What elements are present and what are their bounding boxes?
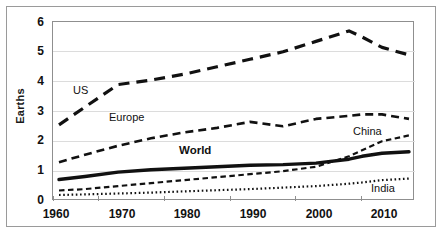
y-tick-4: 4 bbox=[18, 75, 44, 87]
y-tick-5: 5 bbox=[18, 45, 44, 57]
plot-canvas bbox=[53, 22, 415, 201]
x-tick-2010: 2010 bbox=[359, 208, 409, 220]
y-tick-6: 6 bbox=[18, 16, 44, 28]
series-label-europe: Europe bbox=[109, 111, 144, 123]
y-tick-0: 0 bbox=[18, 194, 44, 206]
series-label-world: World bbox=[179, 144, 211, 156]
series-label-us: US bbox=[73, 84, 88, 96]
series-line-china bbox=[59, 135, 409, 190]
x-tick-1970: 1970 bbox=[97, 208, 147, 220]
y-tick-1: 1 bbox=[18, 164, 44, 176]
x-tick-1990: 1990 bbox=[228, 208, 278, 220]
plot-area: US Europe World China India bbox=[52, 21, 414, 200]
x-tick-2000: 2000 bbox=[294, 208, 344, 220]
gridlines bbox=[53, 52, 415, 171]
series-label-india: India bbox=[371, 182, 395, 194]
series-line-india bbox=[59, 179, 409, 195]
x-tick-1960: 1960 bbox=[31, 208, 81, 220]
y-tick-2: 2 bbox=[18, 134, 44, 146]
series-label-china: China bbox=[353, 125, 382, 137]
x-axis-ticks bbox=[53, 196, 415, 201]
x-tick-1980: 1980 bbox=[162, 208, 212, 220]
chart-figure: Earths 6 5 4 3 2 1 0 1960 1970 1980 1990… bbox=[0, 0, 442, 233]
y-tick-3: 3 bbox=[18, 105, 44, 117]
